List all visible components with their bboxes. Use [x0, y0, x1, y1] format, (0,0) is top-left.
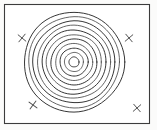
concentric-circles-diagram [0, 0, 157, 130]
figure-root [0, 0, 157, 130]
outer-border [5, 5, 150, 124]
